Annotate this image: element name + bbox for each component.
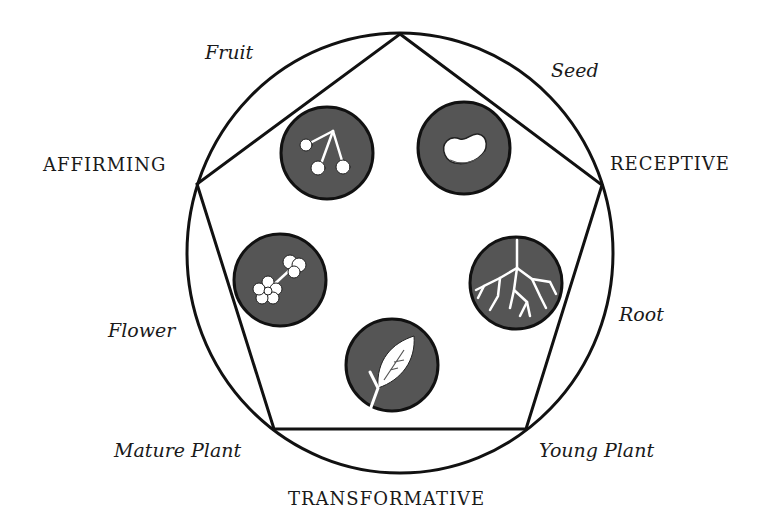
stage-label-mature-plant: Mature Plant: [114, 441, 241, 460]
stage-label-young-plant: Young Plant: [539, 441, 654, 460]
root-medallion: [470, 237, 562, 329]
young-plant-medallion: [346, 319, 438, 411]
fruit-medallion: [281, 107, 373, 199]
stage-label-root: Root: [619, 305, 664, 324]
stage-label-flower: Flower: [108, 321, 175, 340]
force-label-transformative: TRANSFORMATIVE: [288, 490, 485, 508]
stage-label-seed: Seed: [551, 61, 599, 80]
seed-medallion: [418, 102, 510, 194]
force-label-receptive: RECEPTIVE: [610, 155, 730, 173]
life-cycle-diagram: Fruit Seed AFFIRMING RECEPTIVE Root Flow…: [0, 0, 780, 522]
flower-medallion: [234, 234, 326, 326]
force-label-affirming: AFFIRMING: [43, 156, 166, 174]
stage-label-fruit: Fruit: [205, 43, 253, 62]
